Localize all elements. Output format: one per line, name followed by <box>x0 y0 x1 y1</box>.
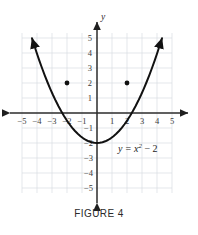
y-tick-5: 5 <box>88 33 92 43</box>
x-tick--3: −3 <box>47 116 56 126</box>
equation-constant: 2 <box>153 143 158 154</box>
parabola-curve <box>56 31 140 144</box>
x-tick-3: 3 <box>140 116 144 126</box>
y-tick--3: −3 <box>84 153 93 163</box>
graph-figure: y −5 −4 −3 −2 −1 1 2 3 4 5 5 4 3 2 1 −1 <box>0 0 198 235</box>
y-tick--4: −4 <box>84 168 94 178</box>
x-tick--4: −4 <box>32 116 42 126</box>
equation-exponent: 2 <box>139 142 143 149</box>
parabola-right-branch <box>97 38 162 143</box>
x-tick-4: 4 <box>155 116 160 126</box>
equation-label: y=x2−2 <box>117 142 158 154</box>
point-marker-right <box>125 81 130 86</box>
equation-equals: = <box>125 143 131 154</box>
y-axis-label: y <box>100 12 106 22</box>
figure-caption: FIGURE 4 <box>0 208 198 219</box>
x-tick-labels-negative: −5 −4 −3 −2 −1 <box>17 116 86 126</box>
y-tick-1: 1 <box>88 93 92 103</box>
equation-lhs: y <box>117 143 123 154</box>
point-marker-left <box>65 81 70 86</box>
x-tick-5: 5 <box>170 116 174 126</box>
x-tick-labels-positive: 1 2 3 4 5 <box>110 116 174 126</box>
x-tick--5: −5 <box>17 116 26 126</box>
y-tick-3: 3 <box>88 63 92 73</box>
figure-container: y −5 −4 −3 −2 −1 1 2 3 4 5 5 4 3 2 1 −1 <box>0 0 198 235</box>
equation-minus: − <box>144 143 150 154</box>
y-tick-2: 2 <box>88 78 92 88</box>
y-tick--1: −1 <box>84 123 93 133</box>
y-tick-labels-negative: −1 −2 −3 −4 −5 <box>84 123 94 193</box>
y-tick--5: −5 <box>84 183 93 193</box>
x-tick-1: 1 <box>110 116 114 126</box>
